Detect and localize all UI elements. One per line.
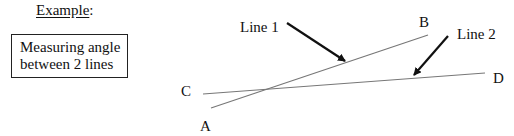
point-a-label: A xyxy=(200,118,211,134)
point-c-label: C xyxy=(181,83,191,99)
line-2-label: Line 2 xyxy=(457,26,496,42)
line-ab xyxy=(211,35,428,108)
line-1-arrow xyxy=(287,23,345,61)
point-b-label: B xyxy=(419,14,429,30)
line-2-arrow xyxy=(414,36,448,75)
line-1-label: Line 1 xyxy=(240,19,279,35)
line-cd xyxy=(203,73,485,94)
point-d-label: D xyxy=(493,70,504,86)
angle-diagram: Line 1 Line 2 B D C A xyxy=(0,0,514,136)
